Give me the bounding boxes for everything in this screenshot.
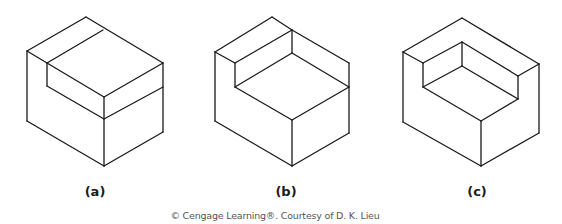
edge-line [235,87,292,120]
figure-a-label: (a) [85,184,106,199]
figure-b-label: (b) [275,184,296,199]
edge-line [292,133,349,166]
edge-line [272,17,292,30]
figure-a-drawing [27,17,163,166]
edge-line [423,87,481,121]
edge-line [215,121,292,166]
figure-c-drawing [403,18,539,166]
figure-b-drawing [215,17,349,166]
edge-line [481,133,539,166]
edge-line [423,66,462,87]
edge-line [403,122,481,166]
edge-line [481,99,518,121]
edge-line [462,18,539,64]
edge-line [86,17,163,63]
edge-line [104,132,163,166]
edge-line [27,121,104,166]
edge-line [403,52,423,63]
figure-c-label: (c) [467,184,487,199]
edge-line [423,42,462,63]
edge-line [27,51,47,63]
edge-line [47,86,104,119]
edge-line [47,63,104,97]
edge-line [518,64,539,76]
edge-line [292,87,349,120]
edge-line [215,52,235,63]
copyright-credit: © Cengage Learning®. Courtesy of D. K. L… [170,210,379,221]
